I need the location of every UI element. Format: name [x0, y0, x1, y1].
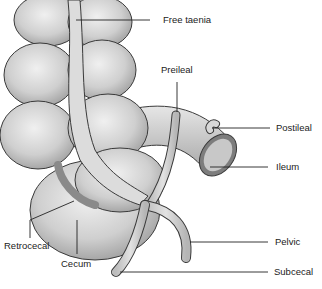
- label-free-taenia: Free taenia: [163, 15, 211, 25]
- label-pelvic: Pelvic: [275, 237, 300, 247]
- label-subcecal: Subcecal: [274, 267, 313, 277]
- appendix-positions-diagram: Free taenia Preileal Postileal Ileum Ret…: [0, 0, 322, 289]
- label-retrocecal: Retrocecal: [4, 241, 49, 251]
- label-postileal: Postileal: [276, 123, 312, 133]
- label-cecum: Cecum: [61, 259, 91, 269]
- label-preileal: Preileal: [161, 65, 193, 75]
- label-ileum: Ileum: [276, 162, 299, 172]
